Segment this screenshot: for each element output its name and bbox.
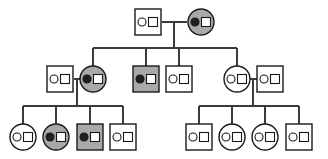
marker-circle-open xyxy=(289,133,297,141)
marker-circle-open xyxy=(50,75,58,83)
individual-I-2[interactable] xyxy=(188,9,214,35)
pedigree-canvas xyxy=(0,0,328,159)
generation-III xyxy=(10,124,312,150)
marker-circle-filled xyxy=(46,133,54,141)
marker-circle-open xyxy=(255,133,263,141)
generation-II xyxy=(47,66,283,92)
individual-II-1[interactable] xyxy=(47,66,73,92)
marker-circle-open xyxy=(13,133,21,141)
marker-square-open xyxy=(202,18,211,27)
individual-symbols xyxy=(10,9,312,150)
marker-square-open xyxy=(300,133,309,142)
individual-II-5[interactable] xyxy=(224,66,250,92)
individual-III-4[interactable] xyxy=(110,124,136,150)
marker-square-open xyxy=(233,133,242,142)
marker-circle-filled xyxy=(191,18,199,26)
marker-circle-open xyxy=(260,75,268,83)
individual-III-7[interactable] xyxy=(252,124,278,150)
individual-II-6[interactable] xyxy=(257,66,283,92)
marker-circle-open xyxy=(138,18,146,26)
marker-circle-filled xyxy=(80,133,88,141)
marker-circle-filled xyxy=(83,75,91,83)
marker-square-open xyxy=(180,75,189,84)
marker-square-open xyxy=(149,18,158,27)
individual-II-3[interactable] xyxy=(133,66,159,92)
marker-square-open xyxy=(271,75,280,84)
marker-square-open xyxy=(57,133,66,142)
individual-II-2[interactable] xyxy=(80,66,106,92)
marker-circle-open xyxy=(169,75,177,83)
marker-circle-open xyxy=(189,133,197,141)
marker-circle-open xyxy=(222,133,230,141)
mating-group-mating-II-right xyxy=(199,79,299,124)
individual-II-4[interactable] xyxy=(166,66,192,92)
marker-circle-open xyxy=(227,75,235,83)
mating-group-mating-I xyxy=(93,22,237,66)
marker-square-open xyxy=(61,75,70,84)
marker-square-open xyxy=(200,133,209,142)
marker-square-open xyxy=(94,75,103,84)
individual-I-1[interactable] xyxy=(135,9,161,35)
marker-square-open xyxy=(238,75,247,84)
marker-square-open xyxy=(147,75,156,84)
individual-III-6[interactable] xyxy=(219,124,245,150)
marker-circle-open xyxy=(113,133,121,141)
pedigree-chart xyxy=(0,0,328,159)
marker-square-open xyxy=(24,133,33,142)
individual-III-3[interactable] xyxy=(77,124,103,150)
individual-III-2[interactable] xyxy=(43,124,69,150)
individual-III-1[interactable] xyxy=(10,124,36,150)
marker-square-open xyxy=(266,133,275,142)
individual-III-5[interactable] xyxy=(186,124,212,150)
marker-square-open xyxy=(124,133,133,142)
marker-square-open xyxy=(91,133,100,142)
individual-III-8[interactable] xyxy=(286,124,312,150)
marker-circle-filled xyxy=(136,75,144,83)
